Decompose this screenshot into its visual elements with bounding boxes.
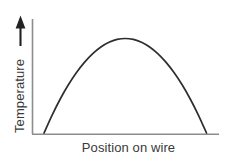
y-axis-label: Temperature (12, 33, 27, 133)
up-arrow-icon (16, 16, 26, 29)
plot-area (0, 0, 239, 162)
temperature-position-figure: Temperature Position on wire (0, 0, 239, 162)
x-axis-label: Position on wire (0, 140, 239, 155)
temperature-curve (44, 39, 207, 134)
